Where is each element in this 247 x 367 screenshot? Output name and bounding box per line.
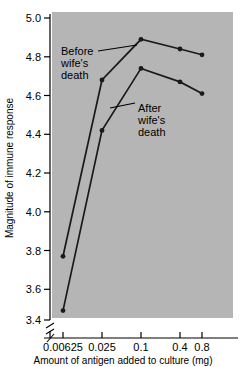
- y-tick-label-4.6: 4.6: [26, 90, 41, 102]
- x-axis-ticks: [63, 332, 202, 338]
- data-point-before-0.00625: [61, 254, 66, 259]
- y-tick-label-4.4: 4.4: [26, 128, 41, 140]
- annotation-after-line-2: wife's: [137, 114, 166, 126]
- y-tick-label-4.8: 4.8: [26, 51, 41, 63]
- chart-figure: 5.0 4.8 4.6 4.4 4.2 4.0 3.8 3.6 3.4 Magn…: [0, 0, 247, 367]
- annotation-before-line-3: death: [61, 69, 89, 81]
- y-tick-label-3.4: 3.4: [26, 314, 41, 326]
- data-point-before-0.4: [178, 47, 183, 52]
- data-point-before-0.1: [139, 37, 144, 42]
- x-tick-label-0.00625: 0.00625: [43, 341, 83, 353]
- x-tick-label-0.8: 0.8: [194, 341, 209, 353]
- y-tick-label-3.8: 3.8: [26, 245, 41, 257]
- annotation-before-line-2: wife's: [60, 57, 89, 69]
- y-tick-label-4.2: 4.2: [26, 167, 41, 179]
- y-tick-label-4.0: 4.0: [26, 206, 41, 218]
- annotation-after-line-3: death: [138, 126, 166, 138]
- data-point-after-0.4: [178, 80, 183, 85]
- annotation-before-line-1: Before: [61, 45, 93, 57]
- y-tick-label-5.0: 5.0: [26, 12, 41, 24]
- data-point-before-0.025: [100, 78, 105, 83]
- data-point-after-0.025: [100, 128, 105, 133]
- annotation-after-line-1: After: [138, 102, 162, 114]
- data-point-after-0.1: [139, 66, 144, 71]
- y-axis-title: Magnitude of immune response: [4, 98, 15, 239]
- data-point-after-0.00625: [61, 308, 66, 313]
- x-tick-label-0.1: 0.1: [133, 341, 148, 353]
- y-axis-ticks: [44, 18, 50, 320]
- y-tick-label-3.6: 3.6: [26, 283, 41, 295]
- x-tick-label-0.4: 0.4: [172, 341, 187, 353]
- x-axis-title: Amount of antigen added to culture (mg): [34, 355, 213, 366]
- immune-response-line-chart: 5.0 4.8 4.6 4.4 4.2 4.0 3.8 3.6 3.4 Magn…: [0, 0, 247, 367]
- x-tick-label-0.025: 0.025: [88, 341, 116, 353]
- data-point-before-0.8: [200, 52, 205, 57]
- data-point-after-0.8: [200, 91, 205, 96]
